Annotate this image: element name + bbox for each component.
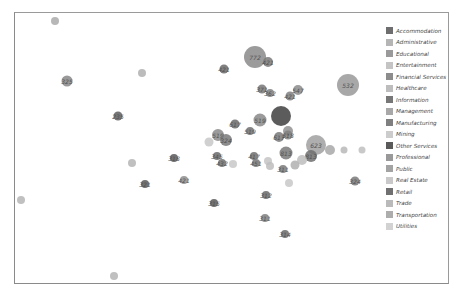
legend-swatch: [386, 188, 393, 195]
legend-item[interactable]: Professional: [386, 152, 456, 164]
legend-swatch: [386, 131, 393, 138]
legend-swatch: [386, 154, 393, 161]
bubble-label: 318: [168, 155, 179, 162]
data-bubble[interactable]: 421: [263, 57, 273, 67]
bubble-label: 519: [254, 117, 265, 124]
bubble-label: 362: [264, 90, 275, 97]
bubble-label: 321: [139, 181, 150, 188]
legend-label: Information: [396, 97, 428, 103]
data-bubble[interactable]: [285, 179, 293, 187]
data-bubble[interactable]: 324: [351, 177, 360, 186]
bubble-label: 617: [229, 121, 240, 128]
data-bubble[interactable]: [359, 147, 366, 154]
data-bubble[interactable]: 519: [254, 114, 267, 127]
data-bubble[interactable]: [138, 69, 146, 77]
data-bubble[interactable]: 362: [266, 89, 274, 97]
data-bubble[interactable]: 311: [261, 214, 269, 222]
data-bubble[interactable]: [229, 160, 237, 168]
legend-label: Retail: [396, 189, 412, 195]
legend-item[interactable]: Retail: [386, 186, 456, 198]
data-bubble[interactable]: 324: [220, 134, 232, 146]
legend-label: Manufacturing: [396, 120, 437, 126]
legend-item[interactable]: Utilities: [386, 221, 456, 233]
legend-label: Educational: [396, 51, 429, 57]
data-bubble[interactable]: [128, 159, 136, 167]
bubble-label: 314: [279, 231, 290, 238]
legend-label: Professional: [396, 154, 430, 160]
legend-item[interactable]: Healthcare: [386, 83, 456, 95]
legend-item[interactable]: Trade: [386, 198, 456, 210]
data-bubble[interactable]: [51, 17, 59, 25]
data-bubble[interactable]: [205, 138, 214, 147]
legend-label: Management: [396, 108, 433, 114]
bubble-label: 421: [284, 93, 295, 100]
data-bubble[interactable]: 421: [286, 92, 295, 101]
legend-label: Transportation: [396, 212, 437, 218]
data-bubble[interactable]: [266, 162, 274, 170]
data-bubble[interactable]: [271, 106, 291, 126]
legend-item[interactable]: Accommodation: [386, 25, 456, 37]
bubble-label: 235: [112, 113, 123, 120]
data-bubble[interactable]: [291, 161, 300, 170]
data-bubble[interactable]: 519: [246, 127, 254, 135]
bubble-label: 772: [249, 54, 260, 61]
legend-item[interactable]: Real Estate: [386, 175, 456, 187]
data-bubble[interactable]: [110, 272, 118, 280]
legend-label: Real Estate: [396, 177, 428, 183]
bubble-label: 324: [220, 137, 231, 144]
data-bubble[interactable]: [341, 147, 348, 154]
data-bubble[interactable]: 314: [281, 230, 289, 238]
legend-label: Healthcare: [396, 85, 427, 91]
data-bubble[interactable]: 813: [280, 147, 293, 160]
bubble-label: 813: [305, 153, 316, 160]
legend-item[interactable]: Transportation: [386, 209, 456, 221]
legend-label: Financial Services: [396, 74, 446, 80]
data-bubble[interactable]: 235: [114, 112, 123, 121]
data-bubble[interactable]: 617: [231, 120, 240, 129]
legend-item[interactable]: Educational: [386, 48, 456, 60]
legend-item[interactable]: Mining: [386, 129, 456, 141]
legend-item[interactable]: Administrative: [386, 37, 456, 49]
legend-swatch: [386, 39, 393, 46]
legend-item[interactable]: Financial Services: [386, 71, 456, 83]
data-bubble[interactable]: 518: [284, 131, 293, 140]
data-bubble[interactable]: 532: [337, 74, 359, 96]
bubble-label: 532: [342, 82, 353, 89]
legend-item[interactable]: Management: [386, 106, 456, 118]
data-bubble[interactable]: 315: [210, 199, 218, 207]
legend-label: Utilities: [396, 223, 417, 229]
bubble-label: 311: [259, 215, 270, 222]
legend-item[interactable]: Entertainment: [386, 60, 456, 72]
legend-label: Entertainment: [396, 62, 436, 68]
legend-swatch: [386, 223, 393, 230]
legend-swatch: [386, 50, 393, 57]
legend-swatch: [386, 119, 393, 126]
data-bubble[interactable]: 451: [252, 159, 260, 167]
data-bubble[interactable]: [17, 196, 25, 204]
legend-item[interactable]: Manufacturing: [386, 117, 456, 129]
data-bubble[interactable]: 432: [218, 159, 226, 167]
bubble-label: 432: [216, 160, 227, 167]
legend-label: Trade: [396, 200, 412, 206]
bubble-label: 421: [218, 66, 229, 73]
legend-swatch: [386, 108, 393, 115]
data-bubble[interactable]: 421: [180, 176, 188, 184]
data-bubble[interactable]: 312: [262, 191, 270, 199]
legend-label: Mining: [396, 131, 415, 137]
data-bubble[interactable]: 421: [220, 65, 229, 74]
data-bubble[interactable]: 311: [279, 165, 287, 173]
data-bubble[interactable]: 325: [62, 76, 73, 87]
legend-item[interactable]: Other Services: [386, 140, 456, 152]
data-bubble[interactable]: [325, 145, 335, 155]
data-bubble[interactable]: 318: [170, 154, 178, 162]
data-bubble[interactable]: 321: [141, 180, 149, 188]
legend-swatch: [386, 27, 393, 34]
bubble-label: 312: [260, 192, 271, 199]
legend-swatch: [386, 62, 393, 69]
bubble-label: 324: [349, 178, 360, 185]
legend-swatch: [386, 96, 393, 103]
legend-item[interactable]: Information: [386, 94, 456, 106]
legend-swatch: [386, 73, 393, 80]
bubble-label: 421: [262, 59, 273, 66]
legend-item[interactable]: Public: [386, 163, 456, 175]
